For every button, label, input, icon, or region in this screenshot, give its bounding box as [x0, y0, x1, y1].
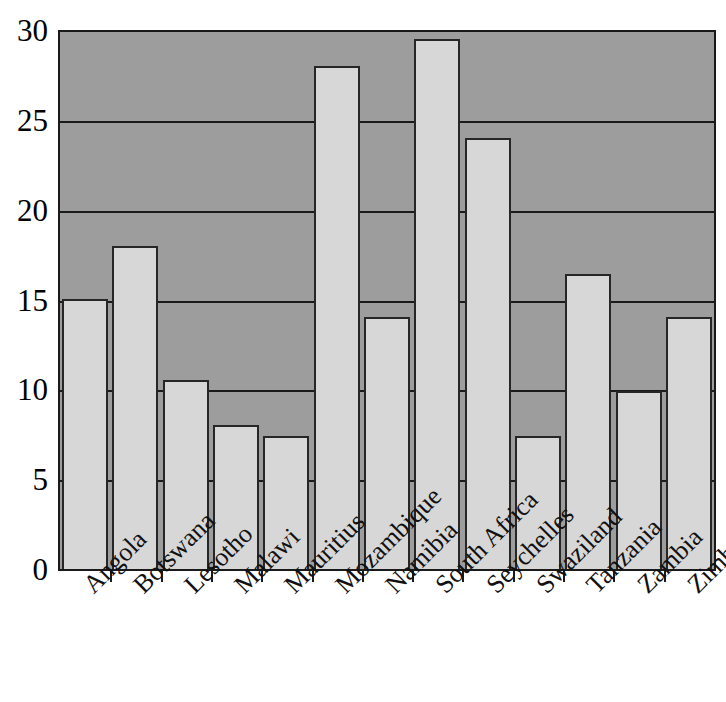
bar-chart: 051015202530 AngolaBotswanaLesothoMalawi…: [0, 0, 726, 702]
x-tick-label: Namibia: [381, 580, 399, 598]
x-axis: AngolaBotswanaLesothoMalawiMauritiusMoza…: [0, 0, 726, 702]
x-tick-label: Seychelles: [482, 580, 500, 598]
x-tick-label: Zambia: [633, 580, 651, 598]
x-tick-label: Zimbabwe: [683, 580, 701, 598]
x-tick-label: South Africa: [431, 580, 449, 598]
x-tick-label: Mozambique: [331, 580, 349, 598]
x-tick-label: Botswana: [129, 580, 147, 598]
x-tick-label: Swaziland: [532, 580, 550, 598]
x-tick-label: Mauritius: [280, 580, 298, 598]
x-tick-label: Angola: [79, 580, 97, 598]
x-tick-label: Tanzania: [582, 580, 600, 598]
x-tick-label: Malawi: [230, 580, 248, 598]
x-tick-label: Lesotho: [180, 580, 198, 598]
